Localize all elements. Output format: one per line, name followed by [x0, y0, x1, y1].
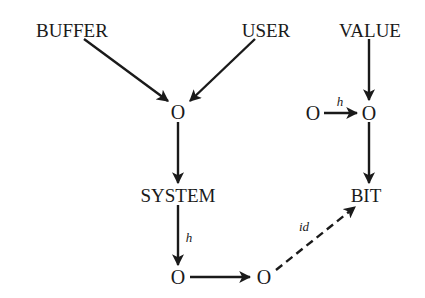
edge-buffer-to-o1 [84, 39, 168, 101]
node-o4: O [171, 266, 185, 288]
node-o1: O [171, 101, 185, 123]
node-bit: BIT [351, 185, 382, 206]
edge-label-id: id [299, 219, 310, 234]
node-value: VALUE [339, 20, 401, 41]
node-o2: O [306, 102, 320, 124]
edge-label-h-system: h [186, 230, 193, 245]
node-o5: O [257, 266, 271, 288]
edge-o5-to-bit-dashed [276, 207, 355, 270]
node-user: USER [242, 20, 291, 41]
node-buffer: BUFFER [36, 20, 108, 41]
edge-label-h-top: h [337, 94, 344, 109]
edge-user-to-o1 [190, 39, 255, 101]
diagram-canvas: BUFFER USER VALUE O O O SYSTEM BIT O O h… [0, 0, 425, 298]
node-system: SYSTEM [141, 185, 216, 206]
node-o3: O [362, 102, 376, 124]
